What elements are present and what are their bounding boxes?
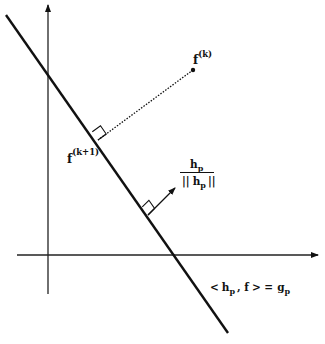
projection-line xyxy=(98,70,193,140)
label-fk: f(k) xyxy=(193,49,212,67)
label-fk1: f(k+1) xyxy=(67,147,99,166)
point-fk xyxy=(191,68,195,72)
right-angle-marker-projection xyxy=(92,126,106,140)
label-unit-normal: hp ||hp|| xyxy=(180,158,216,190)
svg-text:||hp||: ||hp|| xyxy=(182,175,216,190)
projection-diagram: f(k) f(k+1) hp ||hp|| <hp, f> =gp xyxy=(0,0,325,344)
label-hyperplane-equation: <hp, f> =gp xyxy=(210,281,290,296)
svg-text:hp: hp xyxy=(190,158,204,173)
